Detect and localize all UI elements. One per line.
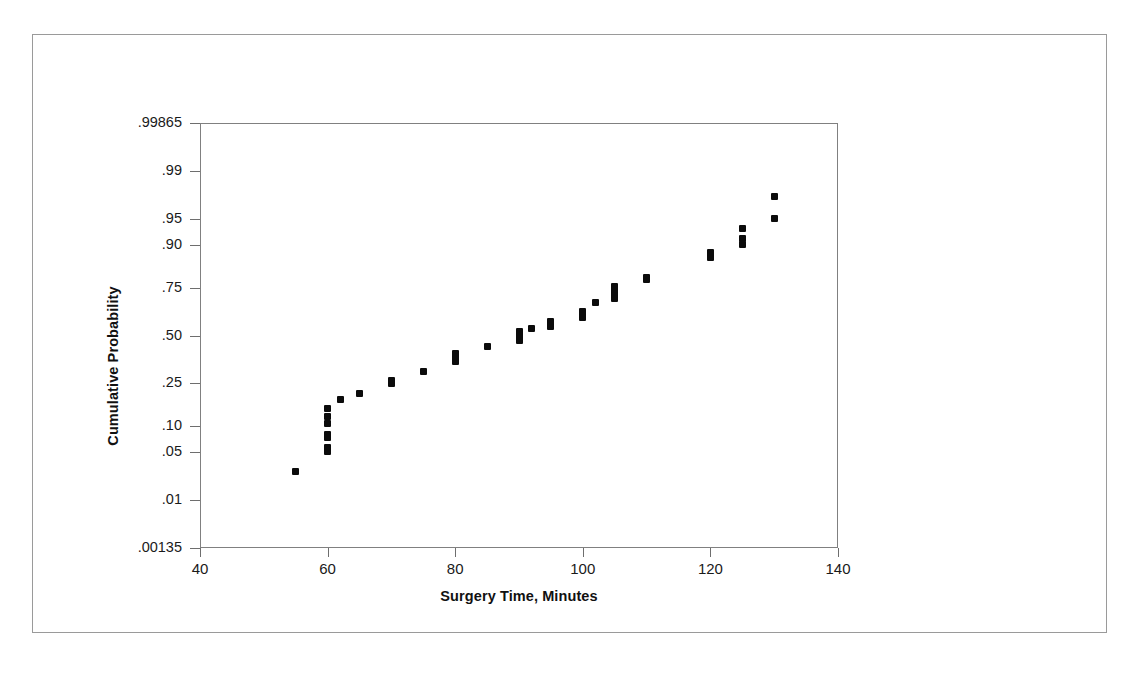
y-tick-mark <box>190 383 200 384</box>
data-point <box>516 328 523 335</box>
y-tick-mark <box>190 336 200 337</box>
x-tick-mark <box>455 548 456 557</box>
y-tick-label-text: .95 <box>162 211 182 226</box>
x-tick-label: 100 <box>553 561 613 581</box>
data-point <box>452 350 459 357</box>
data-point <box>324 444 331 451</box>
y-tick-label: .75 <box>0 280 186 296</box>
data-point <box>643 274 650 281</box>
y-tick-label-text: .99 <box>162 163 182 178</box>
x-axis-title: Surgery Time, Minutes <box>200 588 838 604</box>
y-tick-label: .99865 <box>0 115 186 131</box>
y-tick-label: .05 <box>0 444 186 460</box>
data-point <box>388 377 395 384</box>
data-point <box>739 235 746 242</box>
y-tick-mark <box>190 245 200 246</box>
y-tick-label: .50 <box>0 328 186 344</box>
y-tick-label: .99 <box>0 163 186 179</box>
x-tick-label-text: 140 <box>808 561 868 576</box>
data-point <box>324 431 331 438</box>
data-point <box>356 390 363 397</box>
data-point <box>528 325 535 332</box>
data-point <box>292 468 299 475</box>
data-point <box>592 299 599 306</box>
y-tick-mark <box>190 123 200 124</box>
data-point <box>771 215 778 222</box>
y-tick-mark <box>190 452 200 453</box>
y-tick-mark <box>190 171 200 172</box>
y-axis-title: Cumulative Probability <box>106 236 121 496</box>
data-point <box>579 308 586 315</box>
y-tick-label-text: .00135 <box>138 540 182 555</box>
y-tick-label-text: .99865 <box>138 115 182 130</box>
x-tick-label-text: 80 <box>425 561 485 576</box>
data-point <box>611 283 618 290</box>
x-tick-mark <box>710 548 711 557</box>
data-point <box>324 405 331 412</box>
data-point <box>324 420 331 427</box>
data-point <box>484 343 491 350</box>
y-tick-mark <box>190 500 200 501</box>
y-tick-label-text: .01 <box>162 492 182 507</box>
x-tick-label-text: 40 <box>170 561 230 576</box>
y-tick-label-text: .25 <box>162 375 182 390</box>
y-tick-label: .10 <box>0 418 186 434</box>
y-tick-mark <box>190 219 200 220</box>
y-tick-label: .00135 <box>0 540 186 556</box>
y-tick-label-text: .75 <box>162 280 182 295</box>
data-point <box>324 413 331 420</box>
x-tick-mark <box>838 548 839 557</box>
data-point <box>739 241 746 248</box>
normal-probability-plot: .00135.01.05.10.25.50.75.90.95.99.99865 … <box>0 0 1142 673</box>
data-point <box>771 193 778 200</box>
y-tick-label-text: .90 <box>162 237 182 252</box>
y-tick-label: .90 <box>0 237 186 253</box>
y-tick-label-text: .10 <box>162 418 182 433</box>
x-tick-label-text: 120 <box>680 561 740 576</box>
x-tick-mark <box>200 548 201 557</box>
y-tick-mark <box>190 288 200 289</box>
data-point <box>707 249 714 256</box>
data-point <box>420 368 427 375</box>
y-tick-mark <box>190 426 200 427</box>
y-tick-label-text: .50 <box>162 328 182 343</box>
y-tick-label: .25 <box>0 375 186 391</box>
x-tick-mark <box>583 548 584 557</box>
y-tick-label: .01 <box>0 492 186 508</box>
data-point <box>547 318 554 325</box>
x-tick-label-text: 100 <box>553 561 613 576</box>
x-tick-label: 40 <box>170 561 230 581</box>
x-tick-label: 80 <box>425 561 485 581</box>
x-tick-label: 60 <box>298 561 358 581</box>
data-point <box>739 225 746 232</box>
x-tick-mark <box>328 548 329 557</box>
y-tick-mark <box>190 548 200 549</box>
x-tick-label: 120 <box>680 561 740 581</box>
data-point <box>337 396 344 403</box>
y-tick-label-text: .05 <box>162 444 182 459</box>
x-tick-label-text: 60 <box>298 561 358 576</box>
y-tick-label: .95 <box>0 211 186 227</box>
x-tick-label: 140 <box>808 561 868 581</box>
